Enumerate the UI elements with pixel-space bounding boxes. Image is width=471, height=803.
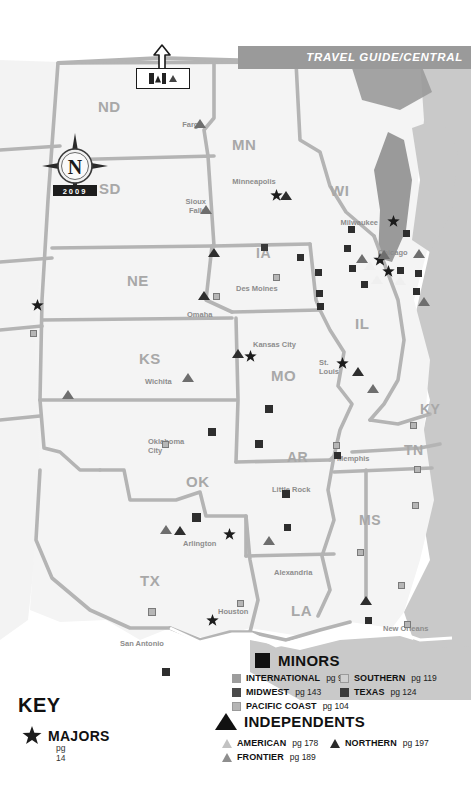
independent-triangle-marker: [62, 390, 74, 399]
independent-triangle-marker: [198, 291, 210, 300]
outside-region-east: [404, 60, 471, 660]
independent-triangle-marker: [360, 596, 372, 605]
outside-region-west: [0, 60, 60, 640]
state-label-tn: TN: [404, 442, 424, 458]
major-star-marker: [223, 528, 236, 540]
minor-square-marker: [415, 270, 422, 277]
square-icon: [255, 653, 270, 668]
minor-square-marker: [316, 290, 323, 297]
independent-triangle-marker: [352, 367, 364, 376]
minor-square-marker: [365, 617, 372, 624]
legend-minors-header: MINORS: [255, 652, 340, 669]
legend-minor-item[interactable]: SOUTHERNpg 119: [340, 673, 437, 683]
legend-minor-item[interactable]: TEXASpg 124: [340, 687, 417, 697]
major-star-marker: [244, 350, 257, 362]
minor-square-marker: [344, 245, 351, 252]
legend-minor-item[interactable]: INTERNATIONALpg 96: [232, 673, 347, 683]
independent-triangle-marker: [160, 525, 172, 534]
legend-independent-page: pg 178: [292, 738, 318, 748]
minor-square-marker: [348, 226, 355, 233]
legend-minor-label: MIDWEST: [246, 687, 289, 697]
minor-square-marker: [398, 582, 405, 589]
city-label: Arlington: [183, 540, 227, 549]
minor-square-marker: [255, 440, 263, 448]
minor-square-marker: [333, 442, 340, 449]
city-label: Des Moines: [236, 285, 288, 294]
triangle-icon: [330, 739, 340, 748]
minor-square-marker: [162, 441, 169, 448]
lake-superior: [352, 62, 432, 110]
minor-square-marker: [148, 608, 156, 616]
independent-triangle-marker: [263, 536, 275, 545]
legend-minor-page: pg 124: [391, 687, 417, 697]
city-label: Houston: [218, 608, 258, 617]
square-icon: [232, 688, 241, 697]
minor-square-marker: [404, 621, 411, 628]
city-label: Kansas City: [253, 341, 307, 350]
border-callout-box: [136, 68, 190, 89]
minor-square-marker: [397, 267, 404, 274]
city-label: Omaha: [187, 311, 219, 320]
legend-minor-item[interactable]: PACIFIC COASTpg 104: [232, 701, 349, 711]
legend-majors-label: MAJORS: [48, 728, 110, 744]
city-label: Milwaukee: [332, 219, 378, 228]
legend-minor-page: pg 104: [323, 701, 349, 711]
legend-minor-item[interactable]: MIDWESTpg 143: [232, 687, 321, 697]
lake-michigan: [374, 132, 412, 262]
compass-north-letter: N: [68, 156, 83, 178]
compass-year: 2009: [63, 187, 88, 196]
legend-minor-label: INTERNATIONAL: [246, 673, 320, 683]
michigan-landmass: [412, 118, 458, 252]
independent-triangle-marker: [182, 373, 194, 382]
independent-triangle-marker: [280, 191, 292, 200]
legend-independent-item[interactable]: NORTHERNpg 197: [330, 738, 429, 748]
arrow-up-icon: [152, 44, 172, 70]
independent-triangle-marker: [413, 249, 425, 258]
state-label-il: IL: [355, 315, 369, 332]
legend-independents-title: INDEPENDENTS: [244, 713, 365, 730]
minor-square-marker: [162, 668, 170, 676]
independent-triangle-marker: [371, 275, 383, 284]
state-label-wi: WI: [330, 182, 349, 199]
legend-independent-item[interactable]: FRONTIERpg 189: [222, 752, 316, 762]
state-label-la: LA: [291, 602, 312, 619]
major-star-marker: [387, 215, 400, 227]
legend-independent-item[interactable]: AMERICANpg 178: [222, 738, 318, 748]
state-label-nd: ND: [98, 98, 121, 115]
legend-independent-page: pg 197: [403, 738, 429, 748]
minor-square-marker: [213, 293, 220, 300]
minor-square-marker: [282, 490, 290, 498]
star-icon: [22, 726, 42, 745]
minor-square-marker: [410, 422, 417, 429]
minor-square-marker: [237, 600, 244, 607]
triangle-icon: [222, 739, 232, 748]
state-label-ar: AR: [287, 449, 308, 465]
major-star-marker: [382, 265, 395, 277]
square-icon: [232, 702, 241, 711]
city-label: Alexandria: [274, 569, 322, 578]
minor-square-marker: [265, 405, 273, 413]
legend-majors[interactable]: MAJORS: [22, 726, 110, 745]
state-label-tx: TX: [140, 572, 160, 589]
state-label-sd: SD: [99, 180, 121, 197]
minor-square-marker: [30, 330, 37, 337]
state-label-ky: KY: [420, 401, 440, 417]
minor-square-marker: [414, 466, 421, 473]
canada-flag-icon: [149, 73, 166, 84]
independent-triangle-marker: [194, 119, 206, 128]
city-label: Wichita: [145, 378, 179, 387]
legend-minor-label: SOUTHERN: [354, 673, 405, 683]
major-star-marker: [206, 614, 219, 626]
legend-minor-label: TEXAS: [354, 687, 385, 697]
minor-square-marker: [315, 269, 322, 276]
triangle-icon: [215, 713, 237, 730]
state-borders: [0, 60, 440, 640]
state-label-ks: KS: [139, 350, 161, 367]
legend-independent-page: pg 189: [290, 752, 316, 762]
minor-square-marker: [208, 428, 216, 436]
minor-square-marker: [361, 281, 368, 288]
minor-square-marker: [357, 549, 364, 556]
state-label-ne: NE: [127, 272, 149, 289]
independent-triangle-marker: [208, 248, 220, 257]
key-title: KEY: [18, 694, 61, 717]
